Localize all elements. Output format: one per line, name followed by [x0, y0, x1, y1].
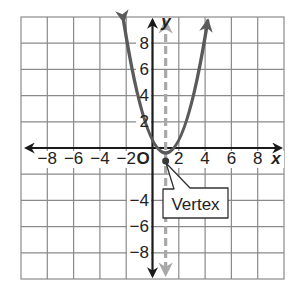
coordinate-graph: −8 −6 −4 −2 O 2 4 6 8 x 8 6 4 2 −4 −6 −8…: [0, 0, 297, 296]
y-tick-label: 2: [140, 112, 149, 131]
y-tick-label: −4: [130, 191, 149, 210]
x-tick-label: −8: [38, 149, 57, 168]
x-tick-label: −2: [117, 149, 136, 168]
y-axis-label: y: [160, 12, 172, 31]
x-tick-label: 6: [227, 149, 236, 168]
y-tick-label: −8: [130, 243, 149, 262]
y-tick-label: 8: [140, 34, 149, 53]
y-tick-label: 6: [140, 60, 149, 79]
x-tick-label: 8: [253, 149, 262, 168]
x-axis-label: x: [270, 149, 282, 168]
x-tick-label: −6: [64, 149, 83, 168]
x-tick-label: 4: [200, 149, 209, 168]
x-tick-label: −4: [90, 149, 109, 168]
vertex-callout-label: Vertex: [171, 195, 220, 214]
vertex-callout: Vertex: [163, 163, 228, 218]
y-tick-label: −6: [130, 217, 149, 236]
x-tick-label: 2: [174, 149, 183, 168]
origin-label: O: [136, 149, 149, 168]
y-tick-label: 4: [140, 86, 149, 105]
